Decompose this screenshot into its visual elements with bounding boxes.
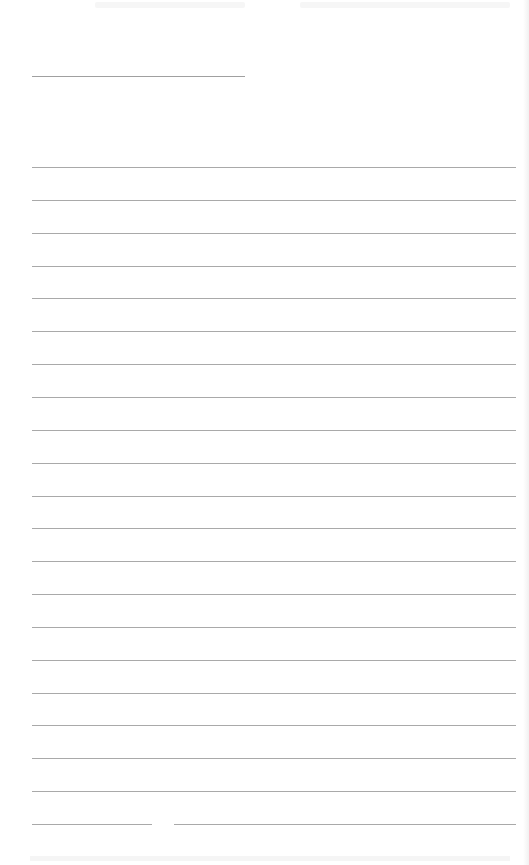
page-edge xyxy=(523,0,529,865)
ruled-line xyxy=(32,298,516,299)
ruled-line xyxy=(32,364,516,365)
ruled-line xyxy=(32,167,516,168)
ruled-line xyxy=(32,528,516,529)
ruled-line xyxy=(32,561,516,562)
ruled-line xyxy=(32,463,516,464)
ruled-line xyxy=(32,660,516,661)
bleed-through-text xyxy=(30,856,510,861)
ruled-line xyxy=(32,430,516,431)
lined-paper-page xyxy=(0,0,529,865)
bleed-through-text xyxy=(95,2,245,8)
ruled-line xyxy=(32,725,516,726)
ruled-line xyxy=(32,693,516,694)
ruled-line xyxy=(32,496,516,497)
ruled-line xyxy=(32,331,516,332)
ruled-line xyxy=(32,397,516,398)
ruled-line xyxy=(32,824,152,825)
ruled-line xyxy=(32,627,516,628)
ruled-line xyxy=(32,266,516,267)
ruled-line xyxy=(32,233,516,234)
ruled-line xyxy=(32,791,516,792)
ruled-line xyxy=(32,200,516,201)
ruled-line xyxy=(32,594,516,595)
header-line xyxy=(32,76,245,77)
bleed-through-text xyxy=(300,2,510,8)
ruled-line xyxy=(174,824,516,825)
ruled-line xyxy=(32,758,516,759)
